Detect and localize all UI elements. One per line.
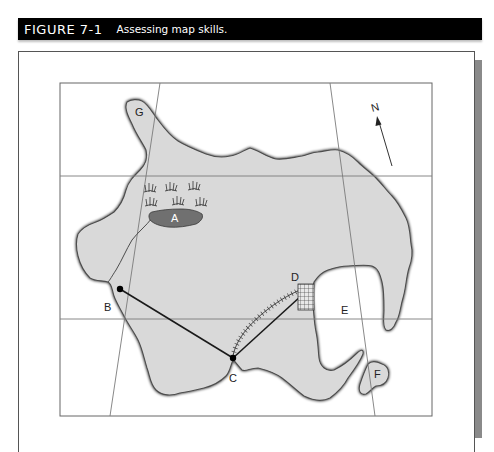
label-c: C	[229, 372, 237, 384]
label-b: B	[104, 301, 111, 313]
point-c	[230, 355, 236, 361]
label-f: F	[374, 368, 381, 380]
label-g: G	[135, 106, 144, 118]
label-e: E	[341, 304, 348, 316]
town-d	[298, 284, 314, 310]
label-d: D	[291, 271, 299, 283]
label-a: A	[171, 212, 179, 224]
point-b	[117, 286, 123, 292]
